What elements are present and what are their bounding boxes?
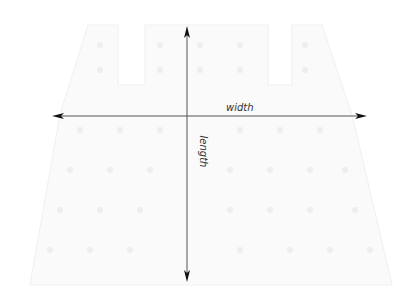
width-label: width <box>226 102 254 113</box>
length-arrow <box>184 26 190 282</box>
width-arrow <box>52 113 367 119</box>
measurement-diagram: width length <box>0 0 419 308</box>
length-label: length <box>198 136 209 168</box>
